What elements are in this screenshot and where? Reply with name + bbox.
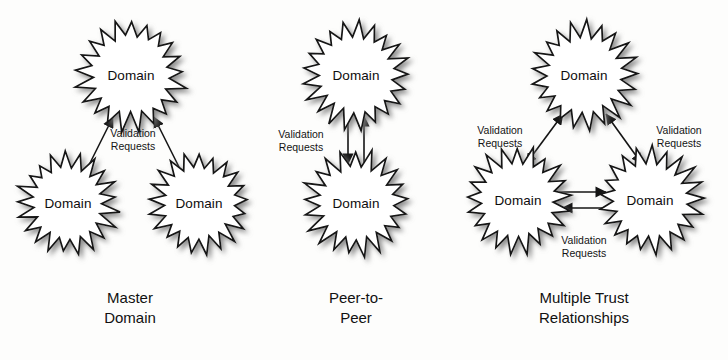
starburst-shape xyxy=(149,154,247,255)
edge-label-line-2: Requests xyxy=(561,246,606,259)
edge-label-line-2: Requests xyxy=(477,136,522,149)
caption-line-1: Multiple Trust xyxy=(539,288,629,308)
caption-line-2: Relationships xyxy=(539,308,629,328)
edge-label-line-1: Validation xyxy=(278,128,323,141)
caption-line-1: Master xyxy=(104,288,156,308)
starburst-shape xyxy=(532,19,637,130)
edge-label-line-2: Requests xyxy=(278,140,323,153)
edge-label-line-1: Validation xyxy=(477,124,522,137)
label-peer-validation: ValidationRequests xyxy=(278,128,323,153)
label-trust-right-validation: ValidationRequests xyxy=(656,124,701,149)
diagram-canvas: DomainDomainDomainValidationRequestsMast… xyxy=(0,0,728,360)
edge-right-to-top xyxy=(154,117,181,171)
master-right-domain[interactable] xyxy=(149,154,247,255)
edge-label-line-2: Requests xyxy=(656,136,701,149)
starburst-shape xyxy=(468,148,572,255)
edge-label-line-1: Validation xyxy=(110,127,155,140)
label-trust-bottom-validation: ValidationRequests xyxy=(561,234,606,259)
peer-top-domain[interactable] xyxy=(303,20,408,131)
master-top-domain[interactable] xyxy=(75,21,186,132)
trust-top-domain[interactable] xyxy=(532,19,637,130)
caption-line-2: Domain xyxy=(104,308,156,328)
trust-right-domain[interactable] xyxy=(600,145,704,255)
panel-caption-master-domain: MasterDomain xyxy=(104,288,156,328)
caption-line-1: Peer-to- xyxy=(329,288,383,308)
edge-label-line-1: Validation xyxy=(561,234,606,247)
starburst-shape xyxy=(304,150,407,257)
starburst-shape xyxy=(75,21,186,132)
edge-label-line-2: Requests xyxy=(110,139,155,152)
starburst-shape xyxy=(303,20,408,131)
caption-line-2: Peer xyxy=(329,308,383,328)
master-left-domain[interactable] xyxy=(18,151,121,254)
label-trust-left-validation: ValidationRequests xyxy=(477,124,522,149)
starburst-shape xyxy=(18,151,121,254)
label-master-validation: ValidationRequests xyxy=(110,127,155,152)
trust-left-domain[interactable] xyxy=(468,148,572,255)
starburst-shape xyxy=(600,145,704,255)
panel-caption-peer-to-peer: Peer-to-Peer xyxy=(329,288,383,328)
peer-bottom-domain[interactable] xyxy=(304,150,407,257)
edge-label-line-1: Validation xyxy=(656,124,701,137)
panel-caption-multiple-trust-relationships: Multiple TrustRelationships xyxy=(539,288,629,328)
